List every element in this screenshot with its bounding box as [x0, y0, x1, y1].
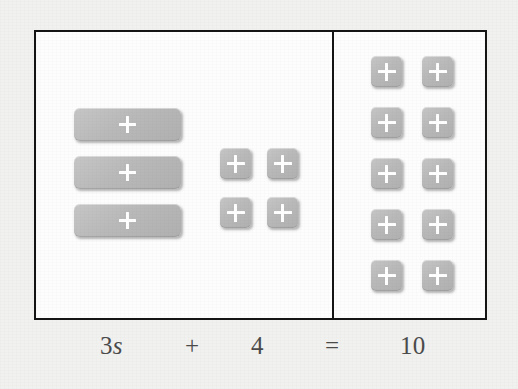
unit-square-tile[interactable]	[422, 56, 453, 87]
equation-caption: 3s + 4 = 10	[34, 326, 487, 372]
equation-lhs-coefficient: 3	[100, 332, 113, 359]
unit-square-tile[interactable]	[422, 158, 453, 189]
equation-equals-operator: =	[325, 326, 339, 366]
algebra-tile-model-box	[34, 30, 487, 320]
left-side-of-equation-panel	[36, 32, 334, 318]
unit-square-tile[interactable]	[371, 158, 402, 189]
unit-square-tile[interactable]	[422, 107, 453, 138]
equation-rhs-value: 10	[400, 326, 425, 366]
unit-square-tile[interactable]	[371, 260, 402, 291]
equation-lhs-term: 3s	[100, 326, 123, 366]
equation-lhs-constant: 4	[251, 326, 264, 366]
unit-square-tile[interactable]	[220, 197, 251, 228]
unit-square-tile[interactable]	[371, 107, 402, 138]
unit-square-tile[interactable]	[422, 209, 453, 240]
unit-square-tile[interactable]	[267, 197, 298, 228]
variable-bar-tile[interactable]	[74, 108, 181, 141]
variable-bar-tile[interactable]	[74, 204, 181, 237]
right-side-of-equation-panel	[334, 32, 485, 318]
unit-square-tile[interactable]	[220, 148, 251, 179]
equation-lhs-variable: s	[113, 332, 123, 359]
unit-square-tile[interactable]	[267, 148, 298, 179]
unit-square-tile[interactable]	[371, 56, 402, 87]
equation-plus-operator: +	[185, 326, 199, 366]
unit-square-tile[interactable]	[371, 209, 402, 240]
variable-bar-tile[interactable]	[74, 156, 181, 189]
unit-square-tile[interactable]	[422, 260, 453, 291]
